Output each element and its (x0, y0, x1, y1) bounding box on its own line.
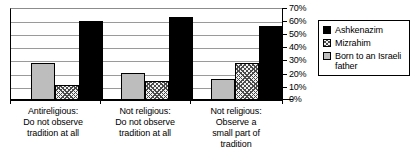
legend-item-ashkenazim: Ashkenazim (323, 25, 405, 35)
y-axis-label-20: 20% (289, 70, 306, 79)
bar-mizrahim-cat3 (235, 63, 259, 100)
gridline-60 (11, 22, 282, 23)
tick-20 (282, 74, 287, 75)
bar-ashkenazim-cat2 (169, 17, 193, 100)
legend-label-born-to-israeli-father: Born to an Israeli father (335, 51, 405, 71)
y-axis-label-70: 70% (289, 4, 306, 13)
legend-label-mizrahim: Mizrahim (335, 38, 371, 48)
tick-10 (282, 87, 287, 88)
category-label-2-line-3: tradition at all (100, 128, 190, 139)
gridline-50 (11, 35, 282, 36)
category-label-1: Antireligious: Do not observe tradition … (8, 106, 98, 139)
chart-legend: Ashkenazim Mizrahim Born to an Israeli f… (318, 20, 410, 76)
category-label-1-line-3: tradition at all (8, 128, 98, 139)
category-label-1-line-1: Antireligious: (8, 106, 98, 117)
bar-ashkenazim-cat3 (259, 26, 283, 100)
bar-mizrahim-cat1 (55, 85, 79, 100)
tick-50 (282, 34, 287, 35)
group-separator-start (10, 99, 11, 104)
bar-chart: 70% 60% 50% 40% 30% 20% 10% 0% Antirelig… (0, 0, 415, 162)
tick-70 (282, 8, 287, 9)
light-gray-swatch-icon (323, 52, 331, 60)
solid-black-swatch-icon (323, 26, 331, 34)
group-separator-1 (100, 99, 101, 104)
bar-mizrahim-cat2 (145, 81, 169, 100)
category-label-3-line-2: Observe a (190, 117, 282, 128)
group-separator-2 (190, 99, 191, 104)
category-axis-line (10, 99, 293, 100)
cross-hatch-swatch-icon (323, 39, 331, 47)
category-label-3-line-1: Not religious: (190, 106, 282, 117)
y-axis-label-40: 40% (289, 43, 306, 52)
category-label-3: Not religious: Observe a small part of t… (190, 106, 282, 150)
gridline-40 (11, 48, 282, 49)
bar-ashkenazim-cat1 (79, 21, 103, 100)
bar-born-cat2 (121, 73, 145, 100)
y-axis-label-10: 10% (289, 83, 306, 92)
group-separator-end (282, 99, 283, 104)
y-axis-label-60: 60% (289, 17, 306, 26)
y-axis-label-0: 0% (289, 95, 302, 104)
tick-30 (282, 60, 287, 61)
tick-40 (282, 47, 287, 48)
legend-item-born-to-israeli-father: Born to an Israeli father (323, 51, 405, 71)
y-axis-label-30: 30% (289, 56, 306, 65)
category-label-3-line-4: tradition (190, 139, 282, 150)
y-axis-label-50: 50% (289, 30, 306, 39)
gridline-0 (11, 100, 282, 101)
category-label-3-line-3: small part of (190, 128, 282, 139)
bar-born-cat1 (31, 63, 55, 100)
legend-label-ashkenazim: Ashkenazim (335, 25, 383, 35)
category-label-1-line-2: Do not observe (8, 117, 98, 128)
tick-60 (282, 21, 287, 22)
legend-item-mizrahim: Mizrahim (323, 38, 405, 48)
bar-born-cat3 (211, 79, 235, 100)
category-label-2: Not religious: Do not observe tradition … (100, 106, 190, 139)
gridline-30 (11, 61, 282, 62)
category-label-2-line-1: Not religious: (100, 106, 190, 117)
plot-area (10, 8, 282, 100)
category-label-2-line-2: Do not observe (100, 117, 190, 128)
